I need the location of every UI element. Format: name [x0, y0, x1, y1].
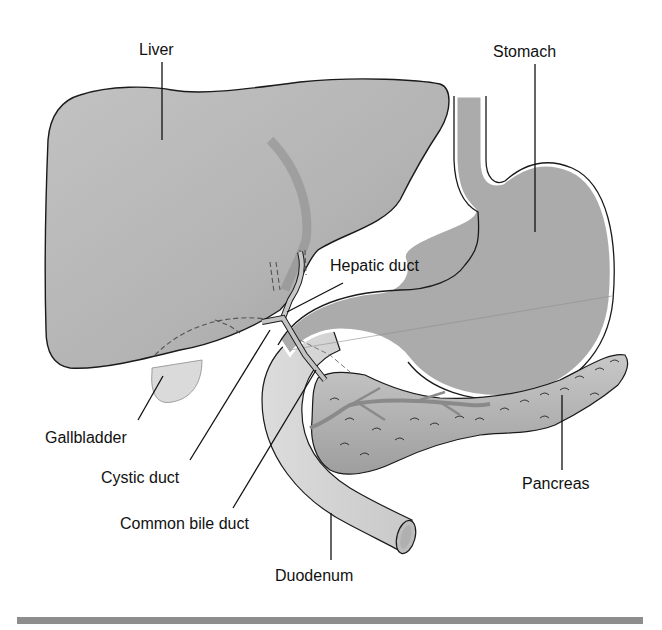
gallbladder — [152, 360, 202, 403]
label-gallbladder: Gallbladder — [45, 430, 127, 446]
label-stomach: Stomach — [493, 44, 556, 60]
label-pancreas: Pancreas — [522, 476, 590, 492]
label-hepatic-duct: Hepatic duct — [330, 258, 419, 274]
bottom-rule — [17, 617, 643, 624]
label-liver: Liver — [139, 42, 174, 58]
label-common-bile-duct: Common bile duct — [120, 516, 249, 532]
anatomy-diagram — [0, 0, 662, 630]
cystic-duct-leader — [190, 330, 270, 460]
label-cystic-duct: Cystic duct — [101, 470, 179, 486]
label-duodenum: Duodenum — [275, 568, 353, 584]
